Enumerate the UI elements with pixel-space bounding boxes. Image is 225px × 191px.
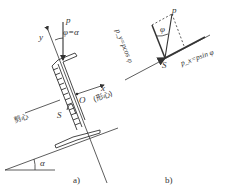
caption-a: a) [73,176,80,185]
angle-label-b: φ [160,25,165,34]
alpha-label: α [40,159,45,168]
centroid-label: O [79,96,86,105]
force-label-b: p [172,6,177,15]
y-axis-line [48,30,107,183]
slope-line [5,128,118,170]
shear-center-label-b: S [162,61,167,70]
phi-arc [55,38,63,40]
force-p-b [165,14,172,58]
caption-b: b) [165,176,173,185]
force-label-a: p [66,16,71,25]
shear-center-label-a: S [57,111,62,120]
shear-center-leader [25,100,60,113]
alpha-arc [34,159,35,170]
phi-arc-b [156,34,168,36]
y-axis-label: y [39,33,43,42]
centroid-point [76,93,79,96]
angle-label-a: φ=α [63,28,79,37]
